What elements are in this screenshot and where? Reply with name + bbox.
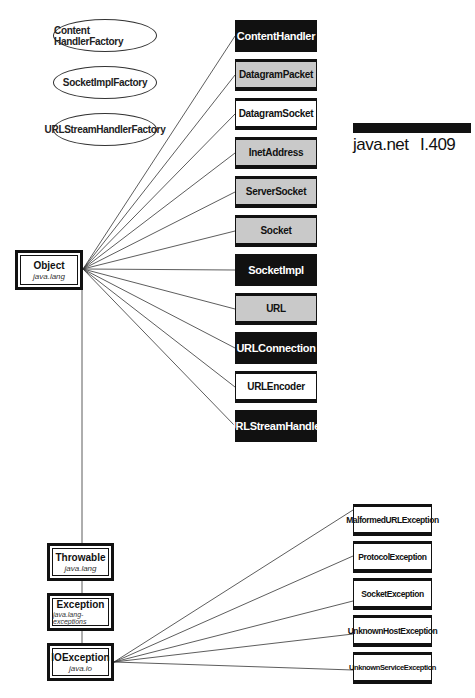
class-label: ContentHandler [237,30,315,42]
class-label: URL [266,303,286,314]
interface-label: URLStreamHandlerFactory [45,124,166,135]
class-url-stream-handler: URLStreamHandler [235,410,317,442]
class-label: ServerSocket [246,186,306,197]
class-label: Socket [261,225,292,236]
exception-socket: SocketException [353,578,432,610]
class-object: Object java.lang [15,250,83,290]
interface-label: Content HandlerFactory [54,25,156,47]
header-bar [353,123,471,133]
exception-unknown-service: UnknownServiceException [353,652,432,684]
class-title: Exception [57,599,105,610]
class-title: Throwable [55,552,105,563]
exception-label: UnknownServiceException [349,663,436,672]
exception-label: ProtocolException [358,552,426,562]
class-socket-impl: SocketImpl [235,254,317,286]
class-title: Object [33,260,64,271]
page-reference: I.409 [420,135,455,155]
class-content-handler: ContentHandler [235,20,317,52]
class-package: java.lang-exceptions [53,611,108,625]
exception-protocol: ProtocolException [353,541,432,573]
class-label: DatagramSocket [239,108,314,119]
class-url-connection: URLConnection [235,332,317,364]
interface-content-handler-factory: Content HandlerFactory [53,19,157,52]
exception-label: MalformedURLException [346,515,439,525]
class-title: IOException [51,652,109,663]
class-exception: Exception java.lang-exceptions [47,593,114,631]
class-datagram-packet: DatagramPacket [235,59,317,91]
class-socket: Socket [235,215,317,247]
class-package: java.io [69,664,92,673]
class-label: DatagramPacket [239,69,313,80]
exception-label: SocketException [361,589,424,599]
class-ioexception: IOException java.io [47,643,114,681]
interface-url-stream-handler-factory: URLStreamHandlerFactory [53,113,157,146]
exception-label: UnknownHostException [348,626,438,636]
class-package: java.lang [33,272,65,281]
interface-socket-impl-factory: SocketImplFactory [53,66,157,99]
package-name: java.net [353,135,409,155]
class-label: URLEncoder [247,381,305,392]
interface-label: SocketImplFactory [63,77,147,88]
class-label: SocketImpl [248,264,304,276]
class-label: URLConnection [236,342,315,354]
class-package: java.lang [64,564,96,573]
exception-unknown-host: UnknownHostException [353,615,432,647]
class-server-socket: ServerSocket [235,176,317,208]
class-label: URLStreamHandler [228,420,324,432]
class-throwable: Throwable java.lang [47,543,114,581]
class-datagram-socket: DatagramSocket [235,98,317,130]
class-url-encoder: URLEncoder [235,371,317,403]
exception-malformed-url: MalformedURLException [353,504,432,536]
class-label: InetAddress [249,147,304,158]
class-inet-address: InetAddress [235,137,317,169]
class-url: URL [235,293,317,325]
